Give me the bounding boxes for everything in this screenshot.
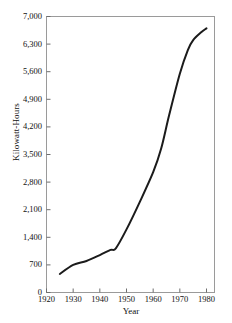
tick-marks (47, 17, 207, 293)
axis-frame (47, 17, 215, 293)
data-line-kilowatt-hours (60, 28, 207, 274)
y-axis-title: Kilowatt-Hours (11, 82, 21, 182)
plot-canvas (0, 0, 232, 323)
x-axis-title: Year (46, 306, 216, 316)
kilowatt-hours-line-chart: 07001,4002,1002,8003,5004,2004,9005,6006… (0, 0, 232, 323)
